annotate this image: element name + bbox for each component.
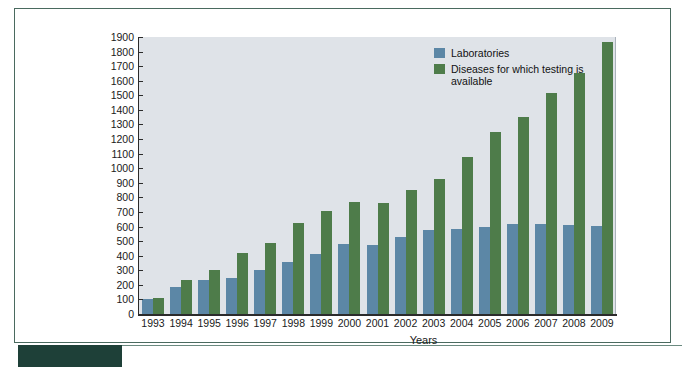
bar-diseases-2008: [574, 73, 585, 314]
bar-group-2001: [367, 37, 389, 314]
legend-entry-laboratories: Laboratories: [434, 47, 584, 60]
y-tick-label-1500: 1500: [111, 89, 134, 101]
bar-group-1994: [170, 37, 192, 314]
bar-diseases-2002: [406, 190, 417, 314]
bar-laboratories-1993: [142, 299, 153, 314]
bar-diseases-1993: [153, 298, 164, 314]
y-tick-mark-300: [139, 270, 143, 271]
bar-diseases-1996: [237, 253, 248, 314]
bar-diseases-2003: [434, 179, 445, 314]
bar-group-1999: [310, 37, 332, 314]
bar-laboratories-2008: [563, 225, 574, 314]
bar-group-1993: [142, 37, 164, 314]
y-tick-label-1400: 1400: [111, 104, 134, 116]
y-tick-label-1200: 1200: [111, 133, 134, 145]
bar-laboratories-2000: [338, 244, 349, 314]
legend-swatch-diseases-icon: [434, 64, 445, 74]
y-tick-label-1100: 1100: [111, 148, 134, 160]
y-tick-label-900: 900: [116, 177, 134, 189]
y-tick-label-400: 400: [116, 250, 134, 262]
y-tick-mark-700: [139, 212, 143, 213]
y-tick-label-1300: 1300: [111, 118, 134, 130]
bar-laboratories-1999: [310, 254, 321, 315]
y-tick-label-0: 0: [128, 308, 134, 320]
y-tick-mark-100: [139, 299, 143, 300]
y-tick-mark-1100: [139, 154, 143, 155]
figure-frame: 0100200300400500600700800900100011001200…: [14, 8, 671, 343]
page-canvas: 0100200300400500600700800900100011001200…: [0, 0, 687, 369]
bar-diseases-1994: [181, 280, 192, 314]
y-tick-label-300: 300: [116, 264, 134, 276]
y-tick-label-1700: 1700: [111, 60, 134, 72]
y-tick-mark-500: [139, 241, 143, 242]
y-tick-mark-800: [139, 197, 143, 198]
y-tick-label-1800: 1800: [111, 46, 134, 58]
footer-divider-rule: [122, 345, 682, 346]
bar-laboratories-2004: [451, 229, 462, 314]
x-axis-line: [138, 314, 617, 316]
y-tick-label-1900: 1900: [111, 31, 134, 43]
y-tick-mark-1600: [139, 81, 143, 82]
chart-legend: Laboratories Diseases for which testing …: [434, 47, 584, 91]
y-tick-mark-600: [139, 227, 143, 228]
y-tick-mark-1900: [139, 37, 143, 38]
legend-swatch-laboratories-icon: [434, 48, 445, 58]
y-axis-line: [138, 37, 139, 315]
bar-diseases-2007: [546, 93, 557, 314]
bar-diseases-1998: [293, 223, 304, 314]
y-tick-mark-1200: [139, 139, 143, 140]
bar-laboratories-1996: [226, 278, 237, 314]
y-tick-label-600: 600: [116, 221, 134, 233]
legend-label-laboratories: Laboratories: [451, 47, 509, 60]
y-tick-mark-400: [139, 256, 143, 257]
y-tick-mark-1800: [139, 52, 143, 53]
legend-label-diseases: Diseases for which testing is available: [451, 63, 584, 88]
bar-laboratories-2009: [591, 226, 602, 314]
y-tick-mark-1700: [139, 66, 143, 67]
bar-laboratories-2007: [535, 224, 546, 314]
bar-group-2000: [338, 37, 360, 314]
bar-group-1998: [282, 37, 304, 314]
bar-group-1997: [254, 37, 276, 314]
y-tick-label-100: 100: [116, 293, 134, 305]
bar-laboratories-2006: [507, 224, 518, 314]
bar-diseases-2001: [378, 203, 389, 314]
bar-diseases-2005: [490, 132, 501, 314]
y-tick-label-1600: 1600: [111, 75, 134, 87]
bar-group-1995: [198, 37, 220, 314]
bar-diseases-1999: [321, 211, 332, 314]
y-tick-mark-900: [139, 183, 143, 184]
bar-group-2002: [395, 37, 417, 314]
bar-laboratories-2002: [395, 237, 406, 314]
bar-laboratories-2005: [479, 227, 490, 314]
y-tick-mark-0: [139, 314, 143, 315]
y-tick-mark-200: [139, 285, 143, 286]
y-axis-tick-labels: 0100200300400500600700800900100011001200…: [75, 9, 134, 369]
bar-group-1996: [226, 37, 248, 314]
footer-accent-block: [18, 345, 122, 367]
bar-laboratories-1997: [254, 270, 265, 314]
bar-laboratories-1994: [170, 287, 181, 314]
x-tick-label-2009: 2009: [585, 317, 619, 329]
y-tick-label-800: 800: [116, 191, 134, 203]
bar-laboratories-1995: [198, 280, 209, 314]
bar-laboratories-1998: [282, 262, 293, 314]
bar-diseases-1995: [209, 270, 220, 314]
bar-diseases-1997: [265, 243, 276, 314]
bar-diseases-2000: [349, 202, 360, 314]
y-tick-mark-1500: [139, 95, 143, 96]
y-tick-mark-1000: [139, 168, 143, 169]
bar-group-2009: [591, 37, 613, 314]
bar-laboratories-2001: [367, 245, 378, 314]
bar-diseases-2009: [602, 42, 613, 314]
y-tick-label-500: 500: [116, 235, 134, 247]
bar-laboratories-2003: [423, 230, 434, 314]
bar-diseases-2006: [518, 117, 529, 314]
y-tick-mark-1400: [139, 110, 143, 111]
y-tick-label-700: 700: [116, 206, 134, 218]
y-tick-label-200: 200: [116, 279, 134, 291]
bar-diseases-2004: [462, 157, 473, 314]
y-tick-label-1000: 1000: [111, 162, 134, 174]
legend-entry-diseases: Diseases for which testing is available: [434, 63, 584, 88]
y-tick-mark-1300: [139, 124, 143, 125]
